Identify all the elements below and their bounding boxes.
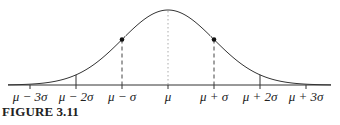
x-tick-label: μ + σ <box>199 89 229 104</box>
inflection-point-dot <box>212 37 217 42</box>
figure-caption: FIGURE 3.11 <box>2 104 79 120</box>
x-tick-label: μ − σ <box>107 89 137 104</box>
normal-curve <box>8 10 331 85</box>
x-tick-label: μ + 2σ <box>242 89 278 104</box>
x-tick-label: μ + 3σ <box>288 89 324 104</box>
inflection-point-dot <box>120 37 125 42</box>
x-tick-label: μ − 3σ <box>12 89 48 104</box>
annotation-lines <box>76 11 260 85</box>
x-tick-label: μ − 2σ <box>58 89 94 104</box>
x-axis-tick-labels: μ − 3σμ − 2σμ − σμμ + σμ + 2σμ + 3σ <box>12 89 324 104</box>
x-tick-label: μ <box>164 89 172 104</box>
